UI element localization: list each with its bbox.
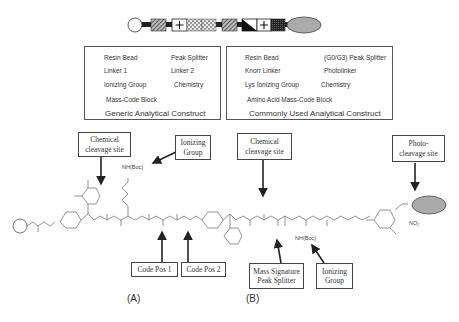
molecule-a xyxy=(13,178,202,233)
legend-label-photolinker: Photolinker xyxy=(324,67,357,74)
panel-label-b: (B) xyxy=(246,293,259,304)
legend-label-resin-bead: Resin Bead xyxy=(245,54,279,61)
callout-code-pos-2: Code Pos 2 xyxy=(181,262,226,277)
callout-ionizing-group-b: Ionizing Group xyxy=(316,263,353,289)
legend-label-chemistry: Chemistry xyxy=(321,81,350,88)
callout-mass-signature-peak-splitter: Mass Signature Peak Splitter xyxy=(249,263,304,289)
legend-label-chemistry: Chemistry xyxy=(174,81,203,88)
callout-ionizing-group-a: Ionizing Group xyxy=(175,135,211,160)
legend-label-linker-2: Linker 2 xyxy=(171,67,194,74)
callout-chemical-cleavage-a: Chemical cleavage site xyxy=(78,132,131,157)
callout-code-pos-1: Code Pos 1 xyxy=(131,262,178,277)
callout-photo-cleavage: Photo- cleavage site xyxy=(392,135,445,162)
legend-generic-title: Generic Analytical Construct xyxy=(105,109,206,118)
legend-label-knorr-linker: Knorr Linker xyxy=(245,67,280,74)
legend-label-ionizing-group: Ionizing Group xyxy=(104,81,146,88)
legend-generic: Resin Bead Peak Splitter Linker 1 Linker… xyxy=(84,46,221,120)
legend-common-title: Commonly Used Analytical Construct xyxy=(249,109,381,118)
chem-label-nh-boc-b: NH(Boc) xyxy=(295,235,316,241)
callout-chemical-cleavage-b: Chemical cleavage site xyxy=(237,133,292,160)
chem-label-no2: NO₂ xyxy=(409,220,419,226)
construct-bar xyxy=(128,17,321,33)
legend-label-linker-1: Linker 1 xyxy=(104,67,127,74)
chem-label-nh-boc-a: NH(Boc) xyxy=(122,164,143,170)
legend-label-mass-code-block: Mass-Code Block xyxy=(106,96,157,103)
legend-label-amino-acid-mass-code-block: Amino Acid Mass-Code Block xyxy=(247,96,332,103)
arrows xyxy=(101,152,415,263)
legend-label-peak-splitter: Peak Splitter xyxy=(171,54,208,61)
legend-label-lys-ionizing-group: Lys Ionizing Group xyxy=(245,81,299,88)
legend-label-resin-bead: Resin Bead xyxy=(104,54,138,61)
legend-common: Resin Bead (G0/G3) Peak Splitter Knorr L… xyxy=(226,46,393,120)
panel-label-a: (A) xyxy=(127,293,140,304)
legend-label-peak-splitter: (G0/G3) Peak Splitter xyxy=(324,54,386,61)
